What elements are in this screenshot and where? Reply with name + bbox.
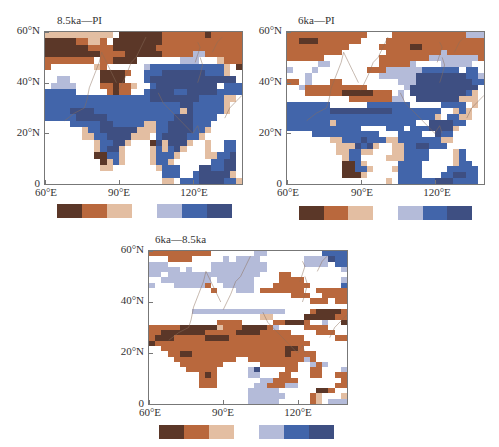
x-tick-60e: 60°E [35, 186, 57, 198]
y-tick-mark [45, 184, 49, 185]
y-tick-40n: 40°N [246, 75, 282, 87]
y-tick-mark [149, 251, 153, 252]
grid-cell [236, 178, 242, 184]
x-tick-60e: 60°E [139, 406, 161, 418]
y-tick-40n: 40°N [4, 75, 40, 87]
y-tick-mark [45, 32, 49, 33]
panel-title: 6ka—8.5ka [155, 233, 206, 245]
grid-cell [341, 399, 347, 404]
colorbar-swatch [447, 206, 472, 220]
y-tick-mark [149, 353, 153, 354]
y-tick-mark [149, 302, 153, 303]
colorbar-swatch [348, 206, 373, 220]
colorbar-swatch [234, 425, 259, 439]
y-tick-mark [287, 83, 291, 84]
colorbar-swatch [299, 206, 324, 220]
y-tick-20n: 20°N [4, 126, 40, 138]
x-tick-90e: 90°E [108, 186, 130, 198]
colorbar-swatch [309, 425, 334, 439]
y-tick-20n: 20°N [246, 126, 282, 138]
colorbar-swatch [57, 204, 82, 218]
y-tick-mark [149, 404, 153, 405]
x-tick-mark [119, 180, 120, 184]
colorbar-swatch [157, 204, 182, 218]
map-grid [287, 32, 484, 184]
y-tick-mark [287, 184, 291, 185]
x-tick-mark [435, 180, 436, 184]
x-tick-mark [298, 400, 299, 404]
colorbar-swatch [398, 206, 423, 220]
colorbar [159, 425, 334, 439]
colorbar-swatch [132, 204, 157, 218]
colorbar-swatch [182, 204, 207, 218]
y-tick-mark [45, 133, 49, 134]
x-tick-mark [361, 180, 362, 184]
map-grid [45, 32, 242, 184]
grid-cell [478, 178, 484, 184]
x-tick-120e: 120°E [423, 186, 451, 198]
colorbar-swatch [209, 425, 234, 439]
panel-title: 8.5ka—PI [57, 14, 102, 26]
colorbar [57, 204, 232, 218]
y-tick-mark [287, 133, 291, 134]
x-tick-120e: 120°E [180, 186, 208, 198]
y-tick-60n: 60°N [246, 24, 282, 36]
y-tick-20n: 20°N [108, 345, 144, 357]
colorbar-swatch [284, 425, 309, 439]
y-tick-60n: 60°N [4, 24, 40, 36]
colorbar-swatch [207, 204, 232, 218]
x-tick-90e: 90°E [212, 406, 234, 418]
x-tick-120e: 120°E [284, 406, 312, 418]
colorbar-swatch [184, 425, 209, 439]
colorbar-swatch [82, 204, 107, 218]
panel-title: 6ka—PI [298, 14, 335, 26]
map-frame [148, 250, 348, 405]
map-grid [149, 251, 347, 404]
y-tick-60n: 60°N [108, 243, 144, 255]
map-frame [286, 31, 485, 185]
x-tick-mark [193, 180, 194, 184]
colorbar-swatch [373, 206, 398, 220]
map-frame [44, 31, 243, 185]
x-tick-mark [223, 400, 224, 404]
y-tick-40n: 40°N [108, 294, 144, 306]
colorbar [299, 206, 472, 220]
colorbar-swatch [324, 206, 349, 220]
colorbar-swatch [159, 425, 184, 439]
colorbar-swatch [423, 206, 448, 220]
y-tick-mark [45, 83, 49, 84]
x-tick-60e: 60°E [277, 186, 299, 198]
y-tick-mark [287, 32, 291, 33]
colorbar-swatch [259, 425, 284, 439]
x-tick-90e: 90°E [351, 186, 373, 198]
colorbar-swatch [107, 204, 132, 218]
